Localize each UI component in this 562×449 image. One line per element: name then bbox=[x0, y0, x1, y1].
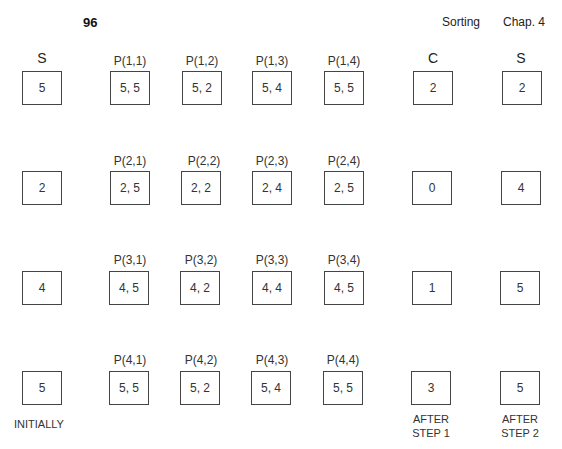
processor-cell: 5, 5 bbox=[324, 71, 364, 105]
processor-label: P(1,4) bbox=[314, 54, 374, 68]
s-final-cell-1: 2 bbox=[502, 71, 542, 105]
caption-after-step1-line2: STEP 1 bbox=[401, 426, 461, 440]
processor-label: P(1,1) bbox=[100, 54, 160, 68]
processor-label: P(4,2) bbox=[171, 353, 231, 367]
column-header-s-final: S bbox=[491, 50, 551, 66]
caption-after-step2-line2: STEP 2 bbox=[490, 426, 550, 440]
processor-label: P(3,2) bbox=[171, 253, 231, 267]
s-initial-cell-1: 5 bbox=[22, 71, 62, 105]
processor-cell: 5, 4 bbox=[252, 71, 292, 105]
processor-label: P(4,4) bbox=[313, 353, 373, 367]
processor-label: P(3,1) bbox=[100, 253, 160, 267]
processor-cell: 2, 5 bbox=[110, 171, 150, 205]
processor-cell: 2, 5 bbox=[324, 171, 364, 205]
processor-label: P(2,3) bbox=[242, 154, 302, 168]
processor-label: P(2,2) bbox=[174, 154, 234, 168]
processor-cell: 2, 4 bbox=[252, 171, 292, 205]
processor-cell: 5, 5 bbox=[109, 371, 149, 405]
caption-initially: INITIALLY bbox=[14, 417, 74, 431]
caption-after-step2: AFTER STEP 2 bbox=[490, 412, 550, 440]
running-head-section: Sorting bbox=[442, 15, 480, 29]
c-cell-1: 2 bbox=[413, 71, 453, 105]
s-initial-cell-3: 4 bbox=[22, 271, 62, 305]
processor-cell: 4, 5 bbox=[109, 271, 149, 305]
processor-cell: 4, 2 bbox=[180, 271, 220, 305]
processor-cell: 4, 4 bbox=[252, 271, 292, 305]
processor-label: P(2,4) bbox=[314, 154, 374, 168]
s-final-cell-3: 5 bbox=[500, 271, 540, 305]
processor-cell: 5, 4 bbox=[251, 371, 291, 405]
s-initial-cell-2: 2 bbox=[22, 171, 62, 205]
processor-cell: 5, 5 bbox=[323, 371, 363, 405]
processor-label: P(4,3) bbox=[242, 353, 302, 367]
processor-label: P(3,3) bbox=[242, 253, 302, 267]
processor-cell: 5, 2 bbox=[182, 71, 222, 105]
processor-label: P(3,4) bbox=[314, 253, 374, 267]
processor-label: P(1,3) bbox=[242, 54, 302, 68]
caption-after-step2-line1: AFTER bbox=[490, 412, 550, 426]
processor-cell: 4, 5 bbox=[324, 271, 364, 305]
processor-label: P(1,2) bbox=[172, 54, 232, 68]
processor-label: P(2,1) bbox=[100, 154, 160, 168]
column-header-s-initial: S bbox=[12, 50, 72, 66]
page-number: 96 bbox=[83, 15, 97, 30]
s-initial-cell-4: 5 bbox=[22, 371, 62, 405]
c-cell-4: 3 bbox=[411, 371, 451, 405]
column-header-c: C bbox=[403, 50, 463, 66]
processor-cell: 2, 2 bbox=[181, 171, 221, 205]
c-cell-2: 0 bbox=[412, 171, 452, 205]
processor-cell: 5, 2 bbox=[180, 371, 220, 405]
s-final-cell-4: 5 bbox=[500, 371, 540, 405]
running-head-chapter: Chap. 4 bbox=[503, 15, 545, 29]
s-final-cell-2: 4 bbox=[501, 171, 541, 205]
caption-after-step1: AFTER STEP 1 bbox=[401, 412, 461, 440]
c-cell-3: 1 bbox=[412, 271, 452, 305]
processor-label: P(4,1) bbox=[100, 353, 160, 367]
caption-after-step1-line1: AFTER bbox=[401, 412, 461, 426]
processor-cell: 5, 5 bbox=[110, 71, 150, 105]
